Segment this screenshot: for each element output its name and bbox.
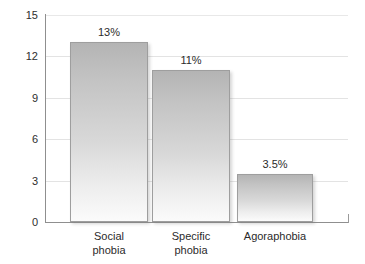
category-label-social-phobia: Social phobia [70, 229, 148, 257]
category-label-line-1: Agoraphobia [230, 229, 320, 243]
x-axis-end-tick [348, 214, 349, 223]
bar-agoraphobia[interactable] [237, 174, 313, 222]
category-label-line-1: Specific [152, 229, 230, 243]
category-label-line-2: phobia [152, 243, 230, 257]
bar-value-specific-phobia: 11% [152, 54, 230, 66]
bar-value-agoraphobia: 3.5% [237, 158, 313, 170]
bar-specific-phobia[interactable] [152, 70, 230, 222]
y-tick-label-12: 12 [4, 51, 38, 62]
category-label-agoraphobia: Agoraphobia [230, 229, 320, 243]
y-tick-label-0: 0 [4, 217, 38, 228]
gridline-15 [45, 15, 348, 16]
bar-social-phobia[interactable] [70, 42, 148, 222]
category-label-specific-phobia: Specific phobia [152, 229, 230, 257]
bar-chart: 15 12 9 6 3 0 13% 11% 3.5% Social phobia… [0, 0, 365, 264]
y-axis-line [45, 14, 46, 223]
y-tick-label-6: 6 [4, 134, 38, 145]
category-label-line-2: phobia [70, 243, 148, 257]
category-label-line-1: Social [70, 229, 148, 243]
y-tick-label-15: 15 [4, 10, 38, 21]
bar-value-social-phobia: 13% [70, 26, 148, 38]
x-axis-line [45, 222, 349, 223]
y-tick-label-9: 9 [4, 93, 38, 104]
y-tick-label-3: 3 [4, 176, 38, 187]
